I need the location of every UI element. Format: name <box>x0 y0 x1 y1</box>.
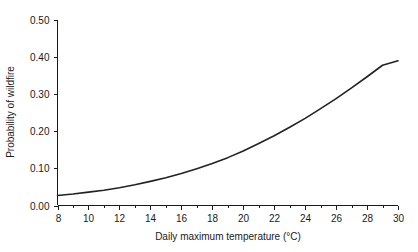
x-tick-label: 28 <box>362 213 374 224</box>
x-tick-label: 18 <box>207 213 219 224</box>
x-tick-label: 26 <box>331 213 343 224</box>
y-axis-title: Probability of wildfire <box>5 66 16 158</box>
y-tick-label: 0.40 <box>30 52 50 63</box>
x-tick-label: 30 <box>393 213 405 224</box>
chart-figure: 0.000.100.200.300.400.50 810121416182022… <box>0 0 418 252</box>
x-tick-label: 8 <box>56 213 62 224</box>
y-tick-label: 0.50 <box>30 15 50 26</box>
y-tick-label: 0.10 <box>30 163 50 174</box>
y-tick-label: 0.00 <box>30 201 50 212</box>
x-tick-label: 10 <box>83 213 95 224</box>
x-tick-label: 20 <box>238 213 250 224</box>
y-tick-label: 0.20 <box>30 126 50 137</box>
x-tick-label: 14 <box>145 213 157 224</box>
wildfire-probability-line-chart: 0.000.100.200.300.400.50 810121416182022… <box>0 0 418 252</box>
x-tick-label: 22 <box>269 213 281 224</box>
x-tick-label: 12 <box>114 213 126 224</box>
x-tick-label: 24 <box>300 213 312 224</box>
y-tick-label: 0.30 <box>30 89 50 100</box>
x-tick-label: 16 <box>176 213 188 224</box>
x-axis-title: Daily maximum temperature (°C) <box>155 231 301 242</box>
